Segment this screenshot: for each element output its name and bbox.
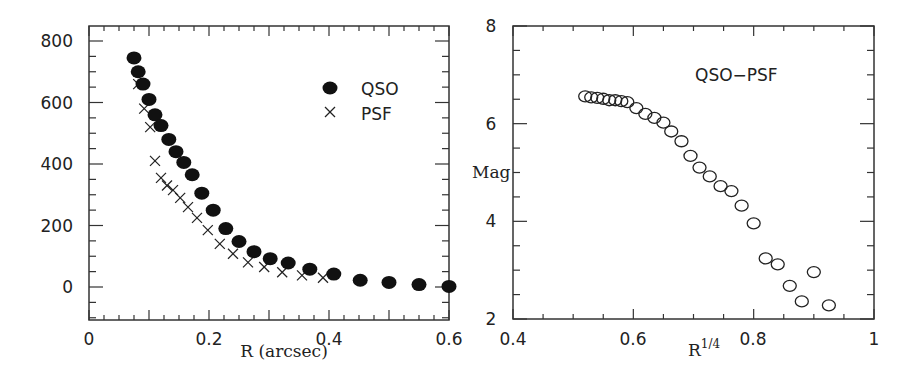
psf-point xyxy=(192,213,202,223)
psf-point xyxy=(175,193,185,203)
qso-psf-point xyxy=(665,126,678,137)
right-plot-annotation: QSO−PSF xyxy=(695,65,778,85)
qso-point xyxy=(127,51,142,64)
psf-point xyxy=(162,181,172,191)
qso-psf-point xyxy=(725,186,738,197)
qso-point xyxy=(218,222,233,235)
legend-qso-marker-icon xyxy=(323,82,338,95)
figure: 800 600 400 200 0 0 0.2 0.4 0.6 R (arcse… xyxy=(0,0,908,380)
right-ytick-6: 6 xyxy=(486,114,497,134)
psf-point xyxy=(215,239,225,249)
right-ytick-2: 2 xyxy=(486,309,497,329)
right-y-axis-label: Mag xyxy=(472,162,511,182)
qso-point xyxy=(263,252,278,265)
legend: QSO PSF xyxy=(323,79,399,124)
left-ytick-200: 200 xyxy=(41,216,73,236)
left-ytick-400: 400 xyxy=(41,154,73,174)
psf-point xyxy=(145,122,155,132)
qso-psf-point xyxy=(703,171,716,182)
right-x-axis-label: R1/4 xyxy=(688,337,720,360)
left-ytick-0: 0 xyxy=(62,277,73,297)
right-xtick-0.4: 0.4 xyxy=(499,329,526,349)
left-x-axis-label: R (arcsec) xyxy=(240,341,328,361)
qso-psf-point xyxy=(684,150,697,161)
legend-psf-label: PSF xyxy=(361,104,392,124)
qso-point xyxy=(154,119,169,132)
qso-psf-point xyxy=(759,253,772,264)
left-plot: 800 600 400 200 0 0 0.2 0.4 0.6 R (arcse… xyxy=(41,26,463,361)
legend-psf-marker-icon xyxy=(325,107,335,117)
qso-point xyxy=(169,145,184,158)
qso-point xyxy=(353,274,368,287)
left-ytick-800: 800 xyxy=(41,31,73,51)
qso-point xyxy=(176,156,191,169)
qso-psf-point xyxy=(807,267,820,278)
left-xtick-0: 0 xyxy=(84,329,95,349)
right-xtick-0.6: 0.6 xyxy=(619,329,646,349)
qso-point xyxy=(142,93,157,106)
left-xtick-0.2: 0.2 xyxy=(195,329,222,349)
right-x-axis-label-sup: 1/4 xyxy=(701,337,721,351)
qso-point xyxy=(161,133,176,146)
psf-point xyxy=(183,202,193,212)
right-plot: 8 6 4 2 Mag 0.4 0.6 0.8 1 R1/4 QSO−PSF xyxy=(472,16,879,360)
right-ytick-8: 8 xyxy=(486,16,497,36)
right-ytick-4: 4 xyxy=(486,211,497,231)
qso-psf-point xyxy=(735,200,748,211)
qso-point xyxy=(281,257,296,270)
qso-point xyxy=(131,65,146,78)
psf-point xyxy=(203,225,213,235)
qso-point xyxy=(382,276,397,289)
qso-point xyxy=(136,78,151,91)
qso-psf-point xyxy=(693,162,706,173)
psf-point xyxy=(150,156,160,166)
right-xtick-0.8: 0.8 xyxy=(739,329,766,349)
right-xtick-1: 1 xyxy=(869,329,880,349)
qso-psf-point xyxy=(822,300,835,311)
qso-psf-point xyxy=(747,218,760,229)
right-data-points xyxy=(579,91,836,311)
psf-point xyxy=(156,173,166,183)
left-data-points xyxy=(127,51,457,292)
qso-psf-point xyxy=(675,136,688,147)
psf-point xyxy=(243,257,253,267)
qso-point xyxy=(412,278,427,291)
qso-point xyxy=(194,187,209,200)
qso-psf-point xyxy=(771,259,784,270)
qso-point xyxy=(247,245,262,258)
qso-point xyxy=(326,268,341,281)
qso-psf-point xyxy=(795,296,808,307)
left-ytick-600: 600 xyxy=(41,93,73,113)
qso-psf-point xyxy=(783,280,796,291)
qso-psf-point xyxy=(630,103,643,114)
qso-point xyxy=(302,263,317,276)
qso-point xyxy=(232,235,247,248)
qso-point xyxy=(185,168,200,181)
psf-point xyxy=(228,249,238,259)
qso-point xyxy=(442,280,457,293)
left-xtick-0.6: 0.6 xyxy=(435,329,462,349)
qso-point xyxy=(206,204,221,217)
legend-qso-label: QSO xyxy=(361,79,399,99)
